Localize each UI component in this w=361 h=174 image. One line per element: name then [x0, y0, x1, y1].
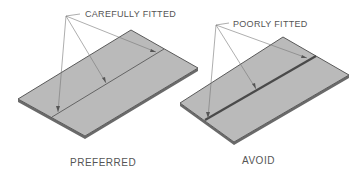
- carefully-fitted-label: CAREFULLY FITTED: [85, 9, 176, 19]
- avoid-plates: [180, 37, 349, 145]
- avoid-caption: AVOID: [242, 155, 275, 166]
- preferred-caption: PREFERRED: [70, 157, 136, 168]
- preferred-plates: [18, 30, 198, 139]
- poorly-fitted-label: POORLY FITTED: [233, 19, 308, 29]
